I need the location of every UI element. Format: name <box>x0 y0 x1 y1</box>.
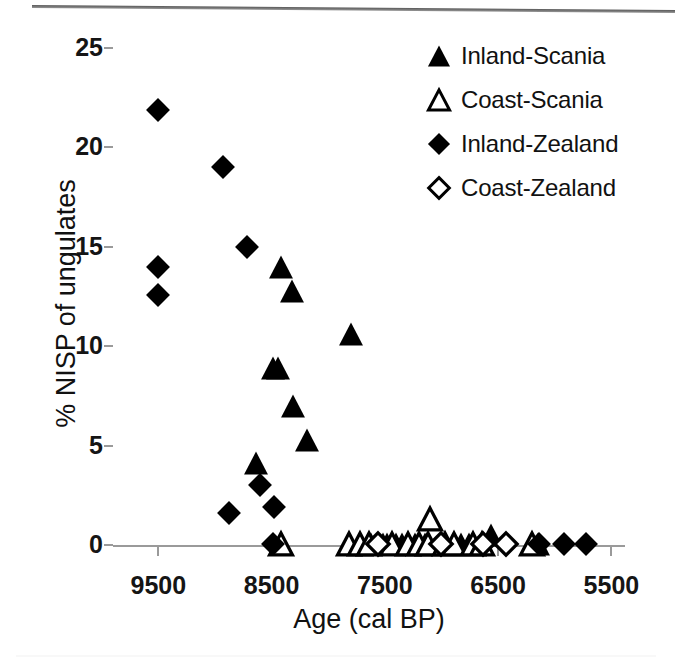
data-point-inland-scania <box>294 427 320 453</box>
data-point-inland-zealand <box>145 254 171 280</box>
data-point-inland-zealand <box>261 494 287 520</box>
x-tick-8500 <box>271 547 273 556</box>
data-point-inland-scania <box>389 531 415 557</box>
data-point-inland-zealand <box>247 472 273 498</box>
data-point-inland-scania <box>370 531 396 557</box>
x-tick-label-8500: 8500 <box>244 573 300 598</box>
data-point-inland-scania <box>448 531 474 557</box>
y-axis-title: % NISP of ungulates <box>53 109 80 499</box>
data-point-coast-scania <box>469 531 495 557</box>
y-tick-label-25: 25 <box>75 35 103 60</box>
data-point-coast-scania <box>432 531 458 557</box>
y-tick-20 <box>104 146 113 148</box>
data-point-inland-zealand <box>526 531 552 557</box>
chart-legend: Inland-ScaniaCoast-ScaniaInland-ZealandC… <box>426 34 671 210</box>
data-point-inland-zealand <box>260 531 286 557</box>
legend-item-coast-zealand[interactable]: Coast-Zealand <box>426 166 671 210</box>
x-tick-7500 <box>384 547 386 556</box>
data-point-inland-scania <box>243 450 269 476</box>
data-point-inland-zealand <box>145 97 171 123</box>
data-point-inland-scania <box>279 278 305 304</box>
data-point-inland-scania <box>412 531 438 557</box>
y-tick-label-0: 0 <box>89 532 103 557</box>
data-point-coast-zealand <box>365 531 391 557</box>
data-point-coast-zealand <box>428 531 454 557</box>
data-point-coast-scania <box>356 531 382 557</box>
data-point-coast-scania <box>379 531 405 557</box>
y-tick-10 <box>104 345 113 347</box>
data-point-coast-scania <box>460 531 486 557</box>
x-tick-label-7500: 7500 <box>357 573 413 598</box>
y-tick-0 <box>104 544 113 546</box>
data-point-coast-scania <box>415 531 441 557</box>
data-point-inland-scania <box>265 355 291 381</box>
open-diamond-icon <box>426 175 452 201</box>
data-point-coast-zealand <box>470 531 496 557</box>
data-point-coast-scania <box>441 531 467 557</box>
data-point-coast-scania <box>336 531 362 557</box>
x-tick-label-6500: 6500 <box>470 573 526 598</box>
x-tick-9500 <box>157 547 159 556</box>
filled-triangle-icon <box>426 43 452 69</box>
data-point-inland-scania <box>440 531 466 557</box>
chart-figure: 0510152025 % NISP of ungulates 950085007… <box>0 0 675 668</box>
data-point-coast-scania <box>347 531 373 557</box>
filled-diamond-icon <box>426 131 452 157</box>
y-tick-5 <box>104 445 113 447</box>
data-point-coast-scania <box>417 506 443 532</box>
data-point-inland-scania <box>456 531 482 557</box>
data-point-inland-zealand <box>216 500 242 526</box>
data-point-inland-scania <box>402 531 428 557</box>
data-point-inland-scania <box>374 531 400 557</box>
scan-artifact-line-bottom <box>16 655 656 657</box>
legend-item-label: Inland-Zealand <box>461 132 618 156</box>
x-axis-tick-labels: 95008500750065005500 <box>113 557 625 591</box>
legend-item-inland-zealand[interactable]: Inland-Zealand <box>426 122 671 166</box>
data-point-inland-zealand <box>573 531 599 557</box>
data-point-inland-zealand <box>234 234 260 260</box>
data-point-coast-scania <box>406 531 432 557</box>
data-point-inland-zealand <box>145 282 171 308</box>
y-tick-label-5: 5 <box>89 433 103 458</box>
data-point-coast-scania <box>395 531 421 557</box>
data-point-inland-scania <box>338 321 364 347</box>
data-point-inland-scania <box>260 355 286 381</box>
legend-item-label: Coast-Zealand <box>461 176 616 200</box>
x-tick-6500 <box>497 547 499 556</box>
y-tick-15 <box>104 246 113 248</box>
open-triangle-icon <box>426 87 452 113</box>
data-point-coast-scania <box>519 531 545 557</box>
legend-item-inland-scania[interactable]: Inland-Scania <box>426 34 671 78</box>
legend-item-label: Inland-Scania <box>461 44 605 68</box>
data-point-inland-scania <box>280 393 306 419</box>
data-point-inland-zealand <box>210 154 236 180</box>
scan-artifact-line-top <box>32 5 675 13</box>
data-point-inland-scania <box>525 531 551 557</box>
x-tick-label-5500: 5500 <box>584 573 640 598</box>
data-point-inland-zealand <box>551 531 577 557</box>
x-axis-title: Age (cal BP) <box>113 606 625 633</box>
x-axis-line <box>113 545 625 547</box>
data-point-inland-scania <box>268 254 294 280</box>
y-tick-25 <box>104 47 113 49</box>
data-point-inland-scania <box>358 531 384 557</box>
x-tick-label-9500: 9500 <box>130 573 186 598</box>
legend-item-label: Coast-Scania <box>461 88 603 112</box>
legend-item-coast-scania[interactable]: Coast-Scania <box>426 78 671 122</box>
x-tick-5500 <box>610 547 612 556</box>
data-point-inland-scania <box>383 531 409 557</box>
